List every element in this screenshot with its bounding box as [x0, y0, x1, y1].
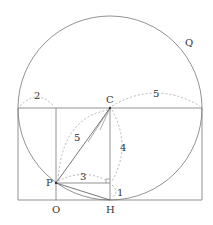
- ray-1: [88, 108, 110, 142]
- point-p: [55, 182, 57, 184]
- label-q: Q: [185, 38, 193, 48]
- label-o: O: [52, 205, 60, 215]
- label-c: C: [106, 95, 114, 105]
- point-c: [109, 107, 111, 109]
- label-length-1: 1: [117, 188, 123, 198]
- geometry-figure: [0, 0, 213, 225]
- label-length-3: 3: [80, 172, 86, 182]
- ray-2: [100, 108, 110, 130]
- label-p: P: [46, 178, 53, 188]
- label-length-4: 4: [120, 143, 126, 153]
- label-length-2: 2: [34, 91, 40, 101]
- label-length-5-pc: 5: [74, 133, 80, 143]
- segment-ph: [56, 183, 110, 200]
- label-h: H: [106, 205, 115, 215]
- label-length-5-top: 5: [153, 89, 159, 99]
- arc-1: [112, 185, 116, 198]
